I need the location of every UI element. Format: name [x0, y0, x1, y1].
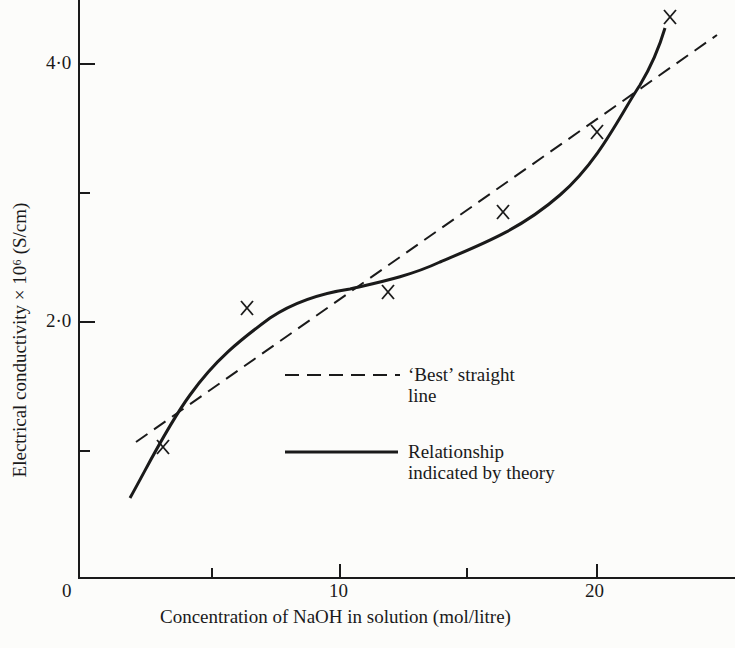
x-axis-label: Concentration of NaOH in solution (mol/l…: [160, 606, 511, 628]
y-tick-label-4: 4·0: [46, 52, 71, 74]
y-axis-label: Electrical conductivity × 10⁶ (S/cm): [9, 203, 31, 478]
data-point-marker: [664, 10, 676, 24]
legend-dashed-label-line2: line: [408, 385, 515, 406]
legend-solid-label-line1: Relationship: [408, 441, 555, 462]
x-ticks: [212, 564, 597, 578]
legend-dashed-label: ‘Best’ straight line: [408, 364, 515, 406]
y-tick-label-2: 2·0: [46, 310, 71, 332]
legend-solid-label: Relationship indicated by theory: [408, 441, 555, 483]
x-tick-label-0: 0: [62, 580, 72, 602]
data-point-marker: [382, 285, 394, 299]
data-point-marker: [241, 301, 253, 315]
x-tick-label-20: 20: [585, 580, 604, 602]
x-tick-label-10: 10: [329, 580, 348, 602]
legend-dashed-label-line1: ‘Best’ straight: [408, 364, 515, 385]
data-point-marker: [497, 205, 509, 219]
legend-solid-label-line2: indicated by theory: [408, 462, 555, 483]
chart-container: 4·0 2·0 0 10 20 Electrical conductivity …: [0, 0, 735, 648]
theory-curve: [130, 28, 665, 498]
y-ticks: [79, 64, 95, 451]
chart-plot-area: [0, 0, 735, 648]
data-point-marker: [591, 125, 603, 139]
